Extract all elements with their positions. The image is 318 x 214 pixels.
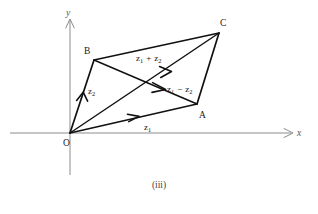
vector-label-z1: z1	[144, 122, 151, 133]
x-axis-label: x	[296, 128, 302, 138]
vertex-label-A: A	[199, 110, 206, 120]
figure-caption: (iii)	[152, 180, 166, 191]
vector-label-z2: z2	[88, 86, 95, 97]
y-axis-label: y	[65, 8, 71, 18]
figure-container: x y O A B C z1 z2 z1+z2 z1−z2 (iii)	[0, 0, 318, 214]
edge-A-C	[197, 33, 219, 104]
vector-label-z1-plus-z2: z1+z2	[136, 53, 161, 64]
vertex-label-B: B	[84, 46, 90, 56]
edge-O-B	[70, 60, 94, 133]
vertex-label-C: C	[220, 18, 226, 28]
vector-label-z1-minus-z2: z1−z2	[167, 84, 192, 95]
diagonal-O-C	[70, 33, 219, 133]
diagonal-B-A	[94, 60, 197, 104]
vector-diagram-svg: x y O A B C z1 z2 z1+z2 z1−z2 (iii)	[0, 0, 318, 214]
vertex-label-O: O	[63, 138, 70, 148]
